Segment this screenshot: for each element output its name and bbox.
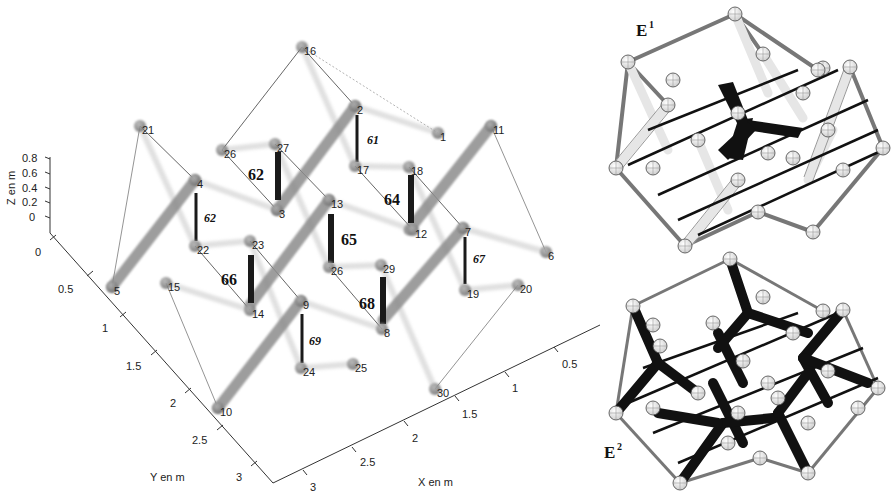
y-tick: 1.5 <box>126 360 141 372</box>
truss-node: 1 <box>432 127 446 143</box>
node-label: 1 <box>440 131 446 143</box>
x-tick: 2.5 <box>360 456 375 468</box>
y-tick: 0 <box>35 246 41 258</box>
node-label: 19 <box>467 288 479 300</box>
truss-node: 18 <box>403 161 423 177</box>
truss-node: 17 <box>349 160 369 176</box>
z-axis-title: Z en m <box>5 171 17 205</box>
member-label: 68 <box>359 295 375 312</box>
y-tick: 2.5 <box>192 434 207 446</box>
node-label: 26 <box>224 148 236 160</box>
node-label: 20 <box>520 283 532 295</box>
z-tick: 0.6 <box>22 167 37 179</box>
truss-node: 10 <box>212 402 232 418</box>
faint-members <box>140 47 546 389</box>
node-label: 2 <box>357 104 363 116</box>
node-label: 11 <box>493 124 504 136</box>
y-tick: 1 <box>102 322 108 334</box>
node-label: 23 <box>252 239 264 251</box>
truss-node: 27 <box>269 138 289 154</box>
x-tick: 2 <box>412 432 418 444</box>
y-tick: 2 <box>170 397 176 409</box>
node-label: 13 <box>331 198 343 210</box>
node-label: 3 <box>279 208 285 220</box>
node-label: 7 <box>465 226 471 238</box>
x-tick: 3 <box>310 481 316 493</box>
z-axis-ticks: 0.8 0.6 0.4 0.2 0 Z en m <box>5 152 37 223</box>
y-tick: 0.5 <box>58 283 73 295</box>
member-label: 67 <box>473 252 486 266</box>
member-label: 62 <box>248 166 264 183</box>
panel-e2: E 2 <box>604 252 885 490</box>
node-label: 9 <box>303 299 309 311</box>
node-label: 6 <box>548 250 554 262</box>
node-label: 12 <box>415 228 427 240</box>
member-label: 62 <box>204 211 216 225</box>
truss-node: 14 <box>244 304 264 320</box>
member-label: 64 <box>384 191 400 208</box>
truss-node: 6 <box>540 246 554 262</box>
node-label: 22 <box>197 244 209 256</box>
y-tick: 3 <box>236 471 242 483</box>
node-label: 16 <box>304 45 316 57</box>
node-label: 10 <box>220 406 232 418</box>
truss-node: 26 <box>323 261 343 277</box>
z-tick: 0.2 <box>22 196 37 208</box>
truss-node: 12 <box>407 224 427 240</box>
panel-sup-e2: 2 <box>617 441 622 452</box>
node-label: 15 <box>168 281 180 293</box>
node-label: 18 <box>411 165 423 177</box>
member-label: 69 <box>309 334 321 348</box>
x-axis-title: X en m <box>418 476 453 488</box>
truss-node: 16 <box>296 41 316 57</box>
y-axis-title: Y en m <box>150 471 185 483</box>
truss-node: 15 <box>160 277 180 293</box>
node-label: 5 <box>114 285 120 297</box>
panel-sup-e1: 1 <box>649 19 654 30</box>
truss-node: 23 <box>244 235 264 251</box>
node-label: 27 <box>277 142 289 154</box>
truss-node: 8 <box>376 323 390 339</box>
truss-node: 21 <box>134 120 154 136</box>
z-tick: 0.4 <box>22 182 37 194</box>
truss-3d-plot: 0.8 0.6 0.4 0.2 0 Z en m 0 0.5 1 1.5 2 2… <box>5 41 600 493</box>
x-axis-line <box>273 325 600 483</box>
truss-node: 30 <box>429 383 449 399</box>
node-label: 26 <box>331 265 343 277</box>
node-label: 21 <box>142 124 154 136</box>
truss-node: 25 <box>347 358 367 374</box>
y-axis-line <box>50 233 273 483</box>
member-label: 65 <box>341 231 357 248</box>
panel-e1: E 1 <box>609 7 890 253</box>
x-tick: 1 <box>512 382 518 394</box>
node-label: 14 <box>252 308 264 320</box>
node-label: 4 <box>197 178 203 190</box>
node-label: 24 <box>303 366 315 378</box>
x-tick: 0.5 <box>562 358 577 370</box>
member-label: 61 <box>367 133 379 147</box>
node-label: 30 <box>437 387 449 399</box>
y-axis-ticks: 0 0.5 1 1.5 2 2.5 3 Y en m <box>35 246 242 483</box>
figure-canvas: 0.8 0.6 0.4 0.2 0 Z en m 0 0.5 1 1.5 2 2… <box>0 0 894 499</box>
node-label: 29 <box>383 263 395 275</box>
z-tick: 0.8 <box>22 152 37 164</box>
member-label: 66 <box>221 271 237 288</box>
truss-node: 29 <box>375 259 395 275</box>
e2-thin-dark-members <box>628 313 878 463</box>
node-label: 8 <box>384 327 390 339</box>
panel-title-e2: E <box>604 443 615 462</box>
panel-title-e1: E <box>636 21 647 40</box>
truss-node: 20 <box>512 279 532 295</box>
x-tick: 1.5 <box>462 408 477 420</box>
node-label: 25 <box>355 362 367 374</box>
node-label: 17 <box>357 164 369 176</box>
z-tick: 0 <box>29 211 35 223</box>
